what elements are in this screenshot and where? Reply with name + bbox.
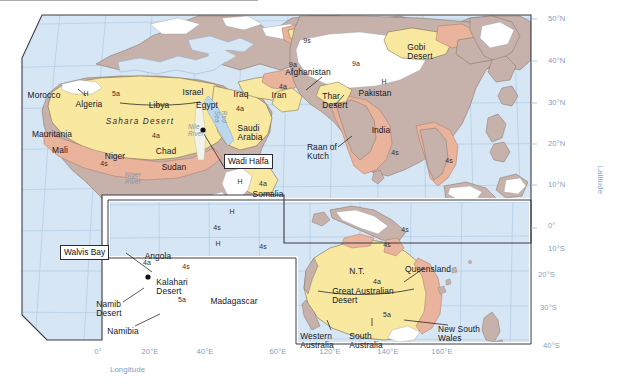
longitude-axis-title: Longitude (110, 366, 145, 374)
lat-tick-20n: 20°N (548, 140, 565, 148)
city-dot-walvis-bay (145, 274, 150, 279)
map-label-india: India (372, 126, 391, 134)
region-code-5a: 5a (112, 90, 120, 97)
region-code-4a: 4a (236, 105, 244, 112)
region-code-4s: 4s (182, 263, 190, 270)
lon-tick-120e: 120°E (319, 348, 340, 356)
lat-tick-40s: 40°S (543, 342, 560, 350)
lat-tick-30n: 30°N (548, 99, 565, 107)
map-label-iran: Iran (272, 91, 287, 99)
map-label-mauritania: Mauritania (32, 130, 72, 138)
lon-tick-20e: 20°E (142, 348, 159, 356)
lon-tick-60e: 60°E (270, 348, 287, 356)
map-label-libya: Libya (149, 101, 170, 109)
lat-tick-10s: 10°S (548, 245, 565, 253)
region-code-h: H (215, 240, 220, 247)
region-code-4s: 4s (383, 241, 391, 248)
map-label-queensland: Queensland (405, 265, 451, 273)
region-code-5a: 5a (383, 311, 391, 318)
map-label-somalia: Somalia (253, 190, 284, 198)
map-canvas (0, 0, 619, 388)
river-label-niger-river: Niger River (125, 172, 141, 186)
region-code-4s: 4s (100, 160, 108, 167)
callout-wadi-halfa: Wadi Halfa (224, 154, 273, 169)
region-code-h: H (381, 78, 386, 85)
region-code-h: H (237, 178, 242, 185)
latitude-ticks (531, 19, 537, 228)
map-label-madagascar: Madagascar (210, 297, 257, 305)
map-label-thar-desert: Thar Desert (322, 92, 347, 110)
map-figure: MoroccoAlgeriaLibyaEgyptIsraelIraqIranMa… (0, 0, 619, 388)
map-label-mali: Mali (52, 146, 68, 154)
map-label-sudan: Sudan (162, 163, 187, 171)
map-label-egypt: Egypt (196, 101, 218, 109)
region-code-9a: 9a (352, 60, 360, 67)
lat-tick-40n: 40°N (548, 57, 565, 65)
region-code-4s: 4s (213, 224, 221, 231)
lat-tick-50n: 50°N (548, 15, 565, 23)
map-label-namibia: Namibia (107, 327, 138, 335)
region-code-4s: 4s (445, 157, 453, 164)
region-code-9s: 9s (303, 37, 311, 44)
region-code-4s: 4s (391, 149, 399, 156)
map-label-great-australian-desert: Great Australian Desert (332, 287, 394, 305)
region-code-5a: 5a (178, 296, 186, 303)
river-label-nile-river: Nile River (188, 124, 204, 138)
lat-tick-10n: 10°N (548, 181, 565, 189)
map-label-afghanistan: Afghanistan (285, 68, 330, 76)
map-label-namib-desert: Namib Desert (96, 300, 121, 318)
lat-tick-20s: 20°S (538, 271, 555, 279)
map-label-chad: Chad (156, 147, 176, 155)
map-label-morocco: Morocco (28, 91, 61, 99)
region-code-4a: 4a (152, 132, 160, 139)
map-label-saudi-arabia: Saudi Arabia (238, 124, 263, 142)
map-label-raan-of-kutch: Raan of Kutch (307, 143, 337, 161)
lon-tick-160e: 160°E (431, 348, 452, 356)
lon-tick-140e: 140°E (377, 348, 398, 356)
callout-walvis-bay: Walvis Bay (60, 245, 109, 260)
region-code-h: H (229, 208, 234, 215)
region-code-4a: 4a (373, 278, 381, 285)
region-code-4s: 4s (259, 243, 267, 250)
map-label-israel: Israel (182, 88, 203, 96)
map-label-kalahari-desert: Kalahari Desert (156, 278, 188, 296)
region-code-h: H (83, 90, 88, 97)
physiographic-label-sahara-desert: Sahara Desert (106, 118, 174, 126)
map-label-gobi-desert: Gobi Desert (407, 43, 432, 61)
map-label-algeria: Algeria (76, 100, 103, 108)
river-label-red-sea: Red Sea (213, 111, 227, 123)
lat-tick-0: 0° (548, 222, 555, 230)
map-label-n-t: N.T. (349, 267, 364, 275)
region-code-4a: 4a (143, 259, 151, 266)
region-code-4a: 4a (259, 180, 267, 187)
latitude-axis-title: Latitude (596, 166, 604, 195)
map-label-iraq: Iraq (234, 90, 249, 98)
map-label-pakistan: Pakistan (359, 89, 392, 97)
region-code-9a: 9a (289, 61, 297, 68)
lon-tick-40e: 40°E (197, 348, 214, 356)
region-code-4a: 4a (279, 83, 287, 90)
region-code-4s: 4s (401, 226, 409, 233)
lon-tick-0: 0° (94, 348, 101, 356)
lat-tick-30s: 30°S (540, 304, 557, 312)
map-label-new-south-wales: New South Wales (438, 325, 480, 343)
